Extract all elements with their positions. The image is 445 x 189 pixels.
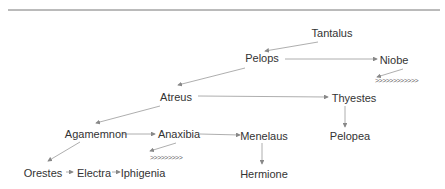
edge-niobe-children	[377, 69, 403, 77]
niobe-children-chain: >>>>>>>>>>>>	[375, 77, 418, 84]
node-agamemnon: Agamemnon	[65, 129, 127, 140]
node-pelopea: Pelopea	[330, 131, 370, 142]
node-menelaus: Menelaus	[240, 131, 288, 142]
node-orestes: Orestes	[24, 168, 63, 179]
edges-layer	[0, 0, 445, 189]
anaxibia-children-chain: >>>>>>>>>	[150, 154, 182, 161]
node-hermione: Hermione	[240, 169, 288, 180]
node-pelops: Pelops	[245, 53, 279, 64]
node-atreus: Atreus	[160, 92, 192, 103]
edge-anaxibia-menelaus	[200, 134, 240, 135]
node-niobe: Niobe	[380, 55, 409, 66]
edge-anaxibia-children	[150, 143, 176, 151]
node-tantalus: Tantalus	[312, 28, 353, 39]
node-thyestes: Thyestes	[332, 93, 377, 104]
node-anaxibia: Anaxibia	[158, 129, 200, 140]
edge-atreus-agamemnon	[96, 106, 160, 123]
edge-tantalus-pelops	[265, 42, 318, 51]
edge-atreus-thyestes	[198, 96, 328, 97]
edge-agamemnon-orestes	[48, 142, 80, 161]
edge-pelops-atreus	[178, 68, 245, 85]
node-iphigenia: Iphigenia	[121, 168, 166, 179]
family-tree-diagram: Tantalus Pelops Niobe Atreus Thyestes Ag…	[0, 0, 445, 189]
node-electra: Electra	[77, 168, 111, 179]
